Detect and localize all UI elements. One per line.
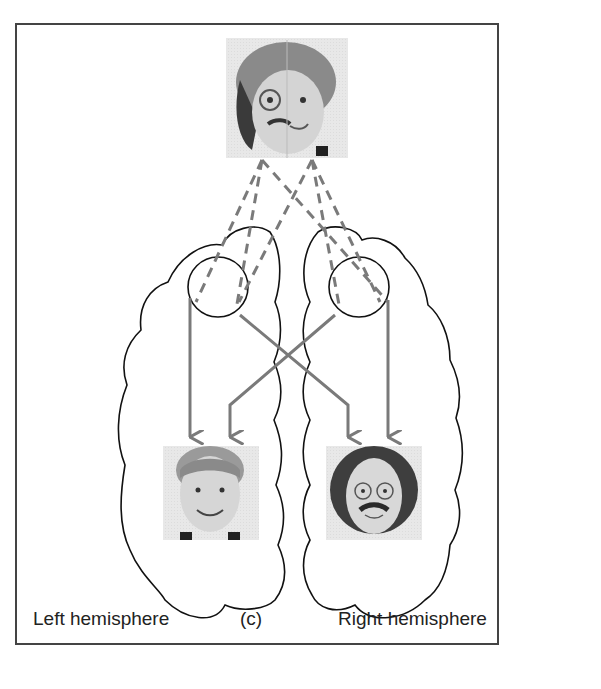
diagram-canvas <box>0 0 601 689</box>
left-hemisphere-label: Left hemisphere <box>33 608 169 630</box>
panel-label: (c) <box>240 608 262 630</box>
chimeric-face-photo <box>226 38 348 158</box>
man-face-photo <box>326 446 422 540</box>
boy-face-photo <box>163 446 259 540</box>
right-hemisphere-label: Right hemisphere <box>338 608 487 630</box>
